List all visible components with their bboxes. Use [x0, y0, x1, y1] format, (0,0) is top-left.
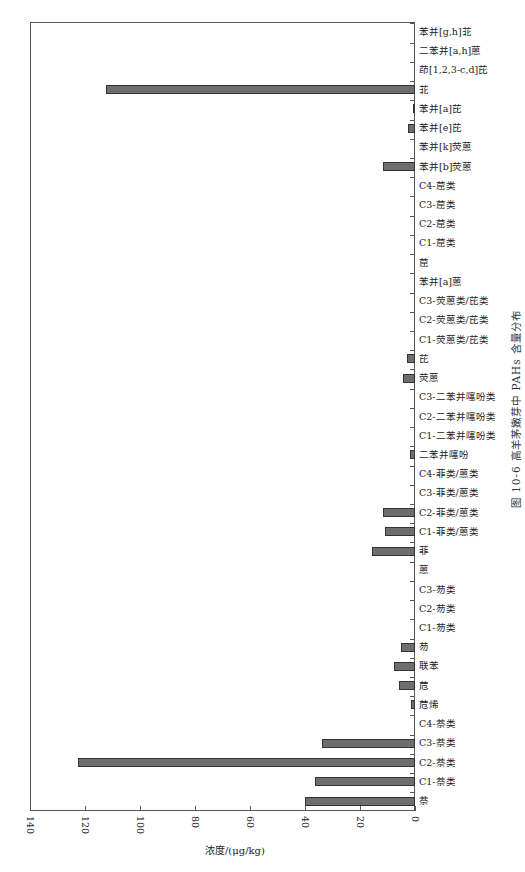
y-tick	[410, 139, 414, 140]
y-tick	[410, 254, 414, 255]
y-tick	[410, 369, 414, 370]
category-label: C1-菲类/蒽类	[419, 526, 479, 538]
bar	[407, 354, 415, 363]
category-label: 蒽	[419, 564, 429, 576]
x-tick-label: 100	[135, 816, 146, 834]
category-label: 芘	[419, 353, 429, 365]
category-label: 苝	[419, 84, 429, 96]
category-label: C3-萘类	[419, 737, 456, 749]
y-tick	[410, 735, 414, 736]
category-label: C4-䓛类	[419, 180, 456, 192]
category-label: 联苯	[419, 660, 439, 672]
category-label: C4-菲类/蒽类	[419, 468, 479, 480]
y-tick	[410, 600, 414, 601]
category-label: 二苯并[a,h]蒽	[419, 45, 481, 57]
y-tick	[410, 389, 414, 390]
x-tick	[30, 806, 31, 811]
category-label: C3-菲类/蒽类	[419, 487, 479, 499]
y-tick	[410, 273, 414, 274]
figure-caption: 图 10-6 高羊茅嫩芽中 PAHs 含量分布	[508, 310, 523, 508]
category-label: 苯并[k]荧蒽	[419, 141, 472, 153]
y-tick	[410, 715, 414, 716]
y-tick	[410, 658, 414, 659]
plot-area	[30, 22, 415, 811]
category-label: C4-萘类	[419, 718, 456, 730]
bar	[322, 739, 416, 748]
y-tick	[410, 196, 414, 197]
category-label: C2-二苯并噻吩类	[419, 411, 496, 423]
category-label: 苯并[b]荧蒽	[419, 161, 473, 173]
bar	[399, 681, 416, 690]
x-tick	[85, 806, 86, 811]
category-label: C1-荧蒽类/芘类	[419, 334, 489, 346]
x-tick-label: 140	[25, 816, 36, 834]
bar	[401, 643, 415, 652]
x-tick	[415, 806, 416, 811]
y-tick	[410, 293, 414, 294]
x-tick-label: 20	[355, 816, 366, 828]
category-label: C2-荧蒽类/芘类	[419, 314, 489, 326]
x-tick-label: 0	[410, 816, 421, 822]
bar	[408, 124, 415, 133]
category-label: C2-萘类	[419, 757, 456, 769]
y-tick	[410, 639, 414, 640]
x-tick-label: 120	[80, 816, 91, 834]
category-label: 萘	[419, 795, 429, 807]
category-label: 茚[1,2,3-c,d]芘	[419, 64, 488, 76]
y-tick	[410, 792, 414, 793]
category-label: C2-芴类	[419, 603, 456, 615]
y-tick	[410, 696, 414, 697]
y-tick	[410, 427, 414, 428]
category-label: C1-芴类	[419, 622, 456, 634]
y-tick	[410, 216, 414, 217]
y-tick	[410, 466, 414, 467]
bar	[403, 374, 415, 383]
bar	[385, 527, 415, 536]
x-tick	[140, 806, 141, 811]
category-label: 菲	[419, 545, 429, 557]
category-label: C3-荧蒽类/芘类	[419, 295, 489, 307]
x-tick	[195, 806, 196, 811]
category-label: C3-二苯并噻吩类	[419, 391, 496, 403]
bar	[410, 450, 416, 459]
y-tick	[410, 43, 414, 44]
category-label: 苯并[a]芘	[419, 103, 462, 115]
x-tick-label: 40	[300, 816, 311, 828]
bar	[383, 508, 415, 517]
y-tick	[410, 23, 414, 24]
category-label: 䓛	[419, 257, 429, 269]
category-label: 二苯并噻吩	[419, 449, 469, 461]
y-tick	[410, 100, 414, 101]
category-label: C3-䓛类	[419, 199, 456, 211]
category-label: 苯并[g,h]苝	[419, 26, 472, 38]
category-label: 苯并[a]蒽	[419, 276, 462, 288]
category-label: C1-二苯并噻吩类	[419, 430, 496, 442]
y-tick	[410, 754, 414, 755]
bar	[315, 777, 415, 786]
y-tick	[410, 81, 414, 82]
y-tick	[410, 619, 414, 620]
bar	[411, 700, 415, 709]
y-tick	[410, 504, 414, 505]
x-tick	[250, 806, 251, 811]
bar	[78, 758, 415, 767]
bar	[305, 797, 415, 806]
y-tick	[410, 581, 414, 582]
y-tick	[410, 408, 414, 409]
x-tick-label: 60	[245, 816, 256, 828]
y-tick	[410, 446, 414, 447]
y-tick	[410, 62, 414, 63]
category-label: C1-萘类	[419, 776, 456, 788]
y-tick	[410, 331, 414, 332]
x-tick	[360, 806, 361, 811]
category-label: C2-菲类/蒽类	[419, 507, 479, 519]
bar	[383, 162, 415, 171]
y-tick	[410, 677, 414, 678]
y-tick	[410, 120, 414, 121]
y-tick	[410, 773, 414, 774]
y-tick	[410, 158, 414, 159]
category-label: C1-䓛类	[419, 237, 456, 249]
y-tick	[410, 177, 414, 178]
y-tick	[410, 235, 414, 236]
y-tick	[410, 485, 414, 486]
